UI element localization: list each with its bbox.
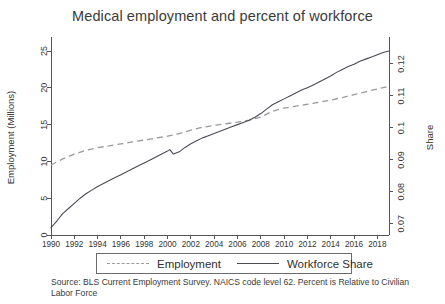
x-axis-tick-label: 1996 <box>112 240 131 249</box>
x-axis-tick-label: 2018 <box>368 240 387 249</box>
legend-label-employment: Employment <box>157 258 221 270</box>
y2-axis-tick-label: 0.11 <box>396 88 406 105</box>
dashed-line-icon <box>107 263 149 264</box>
x-axis-tick-label: 1990 <box>42 240 61 249</box>
x-axis-tick-label: 2012 <box>298 240 317 249</box>
x-axis-tick-label: 2004 <box>205 240 224 249</box>
y-axis-tick-label: 15 <box>39 120 49 130</box>
x-axis-tick-label: 2002 <box>182 240 201 249</box>
x-axis-tick-label: 2010 <box>275 240 294 249</box>
legend-entry-workforce-share[interactable]: Workforce Share <box>237 254 373 273</box>
x-axis-tick-label: 2006 <box>228 240 247 249</box>
y2-axis-tick-label: 0.07 <box>396 215 406 233</box>
y-axis-tick-label: 20 <box>39 83 49 93</box>
series-line-workforce-share <box>51 51 389 228</box>
x-axis-tick-label: 1998 <box>135 240 154 249</box>
solid-line-icon <box>237 263 279 264</box>
chart-title: Medical employment and percent of workfo… <box>0 8 445 24</box>
y-axis-title: Employment (Millions) <box>5 91 16 184</box>
y2-axis-tick-label: 0.12 <box>396 55 406 73</box>
legend-label-workforce-share: Workforce Share <box>287 258 373 270</box>
y2-axis-title: Share <box>424 125 435 150</box>
y-axis-tick-label: 5 <box>39 196 49 201</box>
y-axis-tick-label: 0 <box>39 232 49 237</box>
legend-entry-employment[interactable]: Employment <box>107 254 221 273</box>
chart-figure: Medical employment and percent of workfo… <box>0 0 445 304</box>
x-axis-tick-label: 2014 <box>322 240 341 249</box>
chart-footnote: Source: BLS Current Employment Survey. N… <box>51 277 411 298</box>
x-axis-tick-label: 1992 <box>65 240 84 249</box>
y-axis-tick-label: 25 <box>39 46 49 56</box>
y2-axis-tick-label: 0.08 <box>396 183 406 201</box>
y2-axis-tick-label: 0.1 <box>396 122 406 135</box>
y-axis-tick-label: 10 <box>39 156 49 166</box>
x-axis-tick-label: 1994 <box>89 240 108 249</box>
chart-legend: Employment Workforce Share <box>96 253 352 274</box>
y2-axis-tick-label: 0.09 <box>396 151 406 169</box>
x-axis-tick-label: 2008 <box>252 240 271 249</box>
series-line-employment <box>51 86 389 165</box>
x-axis-tick-label: 2000 <box>158 240 177 249</box>
x-axis-tick-label: 2016 <box>345 240 364 249</box>
plot-canvas: 05101520250.070.080.090.10.110.121990199… <box>0 0 445 250</box>
